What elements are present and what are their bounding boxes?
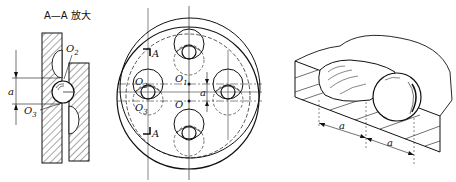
svg-text:A: A: [151, 48, 159, 59]
svg-text:a: a: [339, 120, 345, 131]
ball: [52, 81, 75, 103]
o3-label: O3: [24, 105, 37, 119]
center-o1-label: O1: [175, 73, 188, 87]
svg-text:a: a: [387, 137, 393, 148]
sphere: [373, 73, 421, 121]
section-mark-bottom: A: [143, 127, 159, 139]
svg-text:A: A: [151, 128, 159, 139]
diagram-canvas: A—A 放大 a: [0, 0, 456, 182]
svg-text:a: a: [200, 87, 206, 98]
center-o3-label: O3: [135, 102, 148, 116]
section-mark-top: A: [143, 48, 159, 59]
dim-a-label: a: [8, 86, 14, 97]
o2-label: O2: [66, 43, 79, 57]
center-o-label: O: [175, 99, 183, 110]
right-3d-view: a a: [295, 35, 452, 165]
left-view-title: A—A 放大: [44, 9, 91, 21]
center-plan-view: A A a O2 O3 O1 O: [117, 6, 262, 180]
right-plate: [69, 63, 89, 161]
left-section-view: A—A 放大 a: [8, 9, 91, 163]
